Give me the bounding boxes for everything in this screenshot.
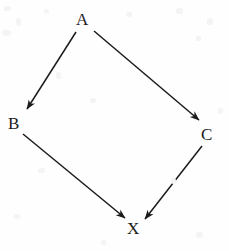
- diagram-svg: [0, 0, 229, 251]
- edge-c-to-x: [145, 146, 202, 219]
- node-label-x: X: [127, 220, 139, 237]
- edge-b-to-x: [23, 134, 125, 218]
- node-label-c: C: [201, 126, 212, 143]
- node-label-a: A: [76, 11, 88, 28]
- node-label-b: B: [8, 115, 19, 132]
- edge-a-to-b: [27, 32, 76, 109]
- edge-a-to-c: [94, 31, 199, 120]
- figure-canvas: A B C X: [0, 0, 229, 251]
